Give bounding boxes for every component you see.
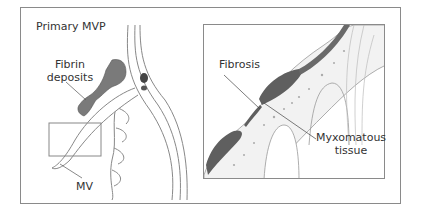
myxomatous-tissue-label: Myxomatous tissue xyxy=(316,131,386,157)
myxo-label-line1: Myxomatous xyxy=(316,131,386,144)
fibrin-label-line2: deposits xyxy=(47,71,93,84)
myxo-label-line2: tissue xyxy=(335,144,368,157)
title-label: Primary MVP xyxy=(36,20,106,33)
fibrin-label-line1: Fibrin xyxy=(55,58,85,71)
fibrosis-label: Fibrosis xyxy=(219,58,260,71)
mv-label: MV xyxy=(76,180,93,193)
fibrin-deposits-label: Fibrin deposits xyxy=(45,58,95,84)
